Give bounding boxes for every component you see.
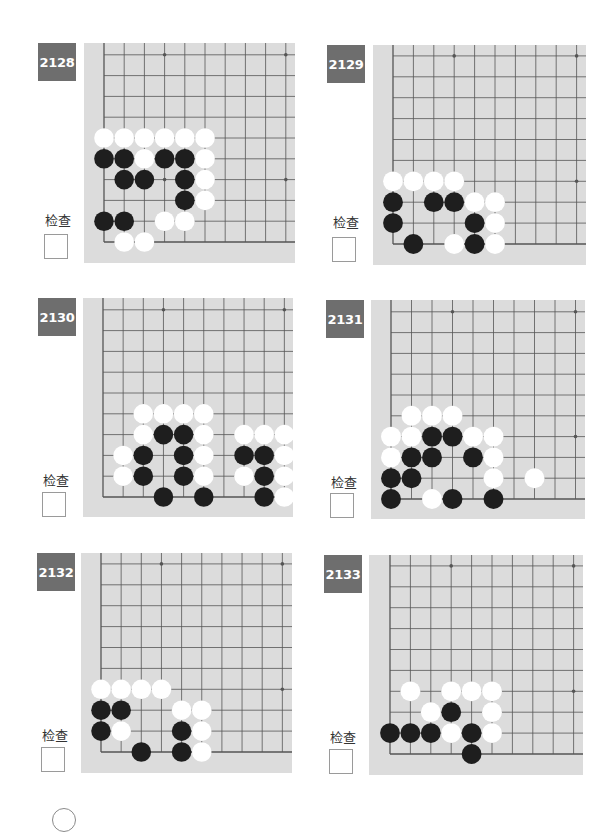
black-stone	[132, 742, 152, 762]
black-stone	[254, 446, 274, 466]
star-point	[451, 310, 455, 314]
go-board	[371, 300, 585, 519]
white-stone	[465, 192, 485, 212]
black-stone	[175, 149, 195, 169]
black-stone	[443, 489, 463, 509]
white-stone	[444, 171, 464, 191]
star-point	[574, 435, 578, 439]
check-label: 检查	[333, 212, 373, 231]
white-stone	[441, 681, 461, 701]
white-stone	[94, 128, 114, 148]
star-point	[574, 310, 578, 314]
white-stone	[91, 680, 111, 700]
white-stone	[381, 447, 401, 467]
white-stone	[134, 425, 154, 445]
white-stone	[195, 191, 215, 211]
check-checkbox[interactable]	[44, 234, 68, 259]
white-stone	[135, 232, 155, 252]
white-stone	[114, 128, 134, 148]
white-stone	[195, 149, 215, 169]
black-stone	[174, 425, 194, 445]
black-stone	[91, 721, 111, 741]
check-checkbox[interactable]	[42, 492, 66, 517]
white-stone	[192, 700, 212, 720]
white-stone	[485, 234, 505, 254]
white-stone	[134, 404, 154, 424]
white-stone	[402, 406, 422, 426]
white-stone	[135, 128, 155, 148]
white-stone	[482, 681, 502, 701]
white-stone	[194, 404, 214, 424]
white-stone	[462, 681, 482, 701]
white-stone	[152, 680, 172, 700]
black-stone	[172, 721, 192, 741]
black-stone	[114, 149, 134, 169]
white-stone	[484, 468, 504, 488]
star-point	[284, 53, 288, 57]
black-stone	[174, 446, 194, 466]
black-stone	[404, 234, 424, 254]
black-stone	[154, 425, 174, 445]
black-stone	[402, 468, 422, 488]
check-label: 检查	[45, 210, 85, 229]
black-stone	[465, 234, 485, 254]
black-stone	[155, 149, 175, 169]
check-checkbox[interactable]	[330, 493, 354, 518]
star-point	[281, 562, 285, 566]
black-stone	[401, 723, 421, 743]
white-stone	[484, 427, 504, 447]
white-stone	[111, 721, 131, 741]
white-stone	[275, 446, 293, 466]
black-stone	[254, 487, 274, 507]
black-stone	[381, 489, 401, 509]
white-stone	[175, 211, 195, 231]
star-point	[281, 688, 285, 692]
black-stone	[402, 447, 422, 467]
white-stone	[424, 171, 444, 191]
go-board	[373, 45, 586, 265]
black-stone	[444, 192, 464, 212]
white-stone	[194, 446, 214, 466]
check-checkbox[interactable]	[41, 747, 65, 772]
white-stone	[404, 171, 424, 191]
white-stone	[254, 425, 274, 445]
black-stone	[91, 700, 111, 720]
go-board	[83, 298, 293, 517]
black-stone	[441, 702, 461, 722]
check-checkbox[interactable]	[329, 749, 353, 774]
star-point	[452, 54, 456, 58]
white-stone	[422, 489, 442, 509]
star-point	[575, 54, 579, 58]
star-point	[163, 178, 167, 182]
black-stone	[443, 427, 463, 447]
white-stone	[482, 702, 502, 722]
white-stone	[192, 742, 212, 762]
white-stone	[422, 406, 442, 426]
white-stone	[155, 211, 175, 231]
black-stone	[111, 700, 131, 720]
white-stone	[135, 149, 155, 169]
star-point	[449, 564, 453, 568]
black-stone	[174, 466, 194, 486]
check-label: 检查	[331, 472, 371, 491]
problem-number-badge: 2130	[38, 298, 76, 336]
black-stone	[465, 213, 485, 233]
problem-number-badge: 2131	[326, 300, 364, 338]
black-stone	[463, 447, 483, 467]
check-checkbox[interactable]	[332, 237, 356, 262]
black-stone	[381, 468, 401, 488]
white-stone	[484, 447, 504, 467]
black-stone	[134, 466, 154, 486]
white-stone	[172, 700, 192, 720]
black-stone	[135, 170, 155, 190]
white-stone	[383, 171, 403, 191]
check-label: 检查	[43, 470, 83, 489]
check-label: 检查	[42, 725, 82, 744]
black-stone	[462, 744, 482, 764]
black-stone	[175, 170, 195, 190]
problem-number-badge: 2133	[324, 555, 362, 593]
white-stone	[194, 425, 214, 445]
white-stone	[444, 234, 464, 254]
problem-number-badge: 2128	[38, 43, 76, 81]
star-point	[283, 308, 287, 312]
